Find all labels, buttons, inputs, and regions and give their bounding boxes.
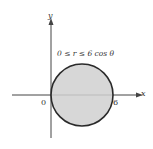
origin-label: 0 bbox=[41, 98, 46, 107]
y-axis-label: y bbox=[48, 11, 53, 20]
x-tick-label-6: 6 bbox=[113, 98, 118, 107]
x-axis-label: x bbox=[141, 89, 146, 98]
region-inequality-label: 0 ≤ r ≤ 6 cos θ bbox=[57, 49, 114, 58]
shaded-disk-region bbox=[51, 64, 113, 126]
polar-region-diagram bbox=[0, 0, 153, 149]
